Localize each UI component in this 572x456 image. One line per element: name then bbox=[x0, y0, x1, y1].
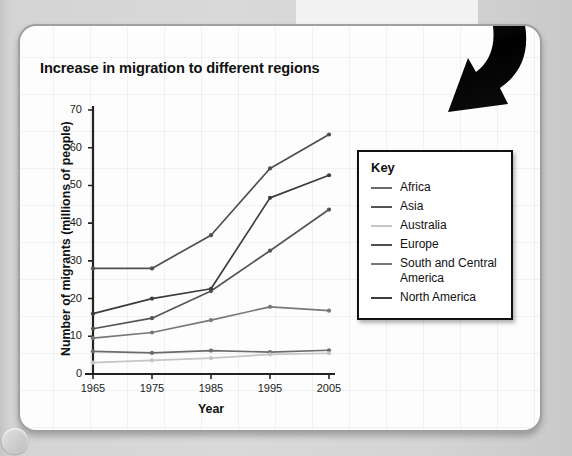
series-point bbox=[150, 358, 154, 362]
y-tick-label: 20 bbox=[60, 292, 82, 304]
series-point bbox=[268, 166, 272, 170]
series-point bbox=[91, 266, 95, 270]
legend-item-4: South and Central America bbox=[371, 256, 511, 286]
ring-icon bbox=[2, 428, 28, 454]
series-point bbox=[268, 305, 272, 309]
series-point bbox=[91, 312, 95, 316]
series-point bbox=[268, 249, 272, 253]
page-background: Increase in migration to different regio… bbox=[0, 0, 572, 456]
legend-line-swatch-icon bbox=[371, 297, 392, 299]
series-point bbox=[91, 336, 95, 340]
y-tick-label: 60 bbox=[60, 141, 82, 153]
series-point bbox=[150, 296, 154, 300]
series-point bbox=[91, 327, 95, 331]
legend-item-1: Asia bbox=[371, 199, 511, 214]
series-point bbox=[209, 287, 213, 291]
series-point bbox=[327, 351, 331, 355]
series-point bbox=[150, 266, 154, 270]
legend-line-swatch-icon bbox=[371, 263, 392, 265]
series-point bbox=[327, 309, 331, 313]
y-tick-label: 40 bbox=[60, 216, 82, 228]
x-tick-label: 1965 bbox=[71, 382, 115, 394]
series-point bbox=[150, 351, 154, 355]
series-line-3 bbox=[93, 135, 329, 269]
legend-line-swatch-icon bbox=[371, 187, 392, 189]
y-axis-title: Number of migrants (millions of people) bbox=[59, 126, 73, 356]
legend-items: AfricaAsiaAustraliaEuropeSouth and Centr… bbox=[359, 180, 511, 305]
series-point bbox=[91, 361, 95, 365]
series-point bbox=[327, 173, 331, 177]
y-tick-label: 10 bbox=[60, 329, 82, 341]
series-point bbox=[209, 356, 213, 360]
legend-title: Key bbox=[371, 160, 511, 175]
x-tick-label: 1975 bbox=[130, 382, 174, 394]
series-point bbox=[209, 318, 213, 322]
x-axis-title: Year bbox=[93, 402, 329, 416]
legend-item-label: Africa bbox=[400, 180, 431, 195]
legend-item-3: Europe bbox=[371, 237, 511, 252]
y-tick-label: 70 bbox=[60, 103, 82, 115]
series-point bbox=[327, 207, 331, 211]
chart-series bbox=[91, 132, 331, 364]
legend-item-label: South and Central America bbox=[400, 256, 504, 286]
x-tick-label: 1985 bbox=[189, 382, 233, 394]
legend-item-label: Australia bbox=[400, 218, 447, 233]
legend-item-2: Australia bbox=[371, 218, 511, 233]
x-tick-label: 1995 bbox=[248, 382, 292, 394]
legend-line-swatch-icon bbox=[371, 206, 392, 208]
series-point bbox=[91, 349, 95, 353]
series-point bbox=[150, 330, 154, 334]
series-point bbox=[268, 352, 272, 356]
x-tick-label: 2005 bbox=[307, 382, 351, 394]
series-point bbox=[209, 349, 213, 353]
legend-item-label: North America bbox=[400, 290, 476, 305]
legend-item-0: Africa bbox=[371, 180, 511, 195]
legend-item-label: Europe bbox=[400, 237, 439, 252]
y-tick-label: 30 bbox=[60, 254, 82, 266]
top-white-strip bbox=[296, 0, 478, 24]
series-point bbox=[209, 233, 213, 237]
series-point bbox=[268, 196, 272, 200]
y-tick-label: 50 bbox=[60, 178, 82, 190]
series-point bbox=[150, 316, 154, 320]
legend-line-swatch-icon bbox=[371, 244, 392, 246]
legend-key-box: Key AfricaAsiaAustraliaEuropeSouth and C… bbox=[357, 150, 513, 320]
legend-item-label: Asia bbox=[400, 199, 423, 214]
series-point bbox=[327, 132, 331, 136]
chart-axes bbox=[85, 106, 335, 379]
legend-item-5: North America bbox=[371, 290, 511, 305]
y-tick-label: 0 bbox=[60, 367, 82, 379]
legend-line-swatch-icon bbox=[371, 225, 392, 227]
chart-card: Increase in migration to different regio… bbox=[18, 24, 542, 432]
